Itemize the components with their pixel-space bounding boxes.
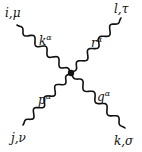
label-top-right: l,τ (114, 2, 129, 16)
momentum-k-sup: α (46, 33, 52, 42)
momentum-bottom-left: pα (38, 92, 52, 107)
label-bottom-left: j,ν (8, 131, 26, 145)
propagator-top-left (17, 25, 71, 73)
label-bottom-right: k,σ (114, 134, 134, 148)
momentum-k: k (39, 34, 46, 48)
momentum-q-sup: α (105, 89, 111, 98)
feynman-diagram: i,μ l,τ j,ν k,σ kα rα pα qα (0, 0, 142, 152)
momentum-top-left: kα (39, 33, 52, 48)
momentum-r-sup: α (97, 35, 103, 44)
label-top-left: i,μ (5, 6, 21, 20)
momentum-p-sup: α (46, 92, 52, 101)
momentum-bottom-right: qα (97, 89, 111, 104)
vertex-dot (68, 70, 74, 76)
